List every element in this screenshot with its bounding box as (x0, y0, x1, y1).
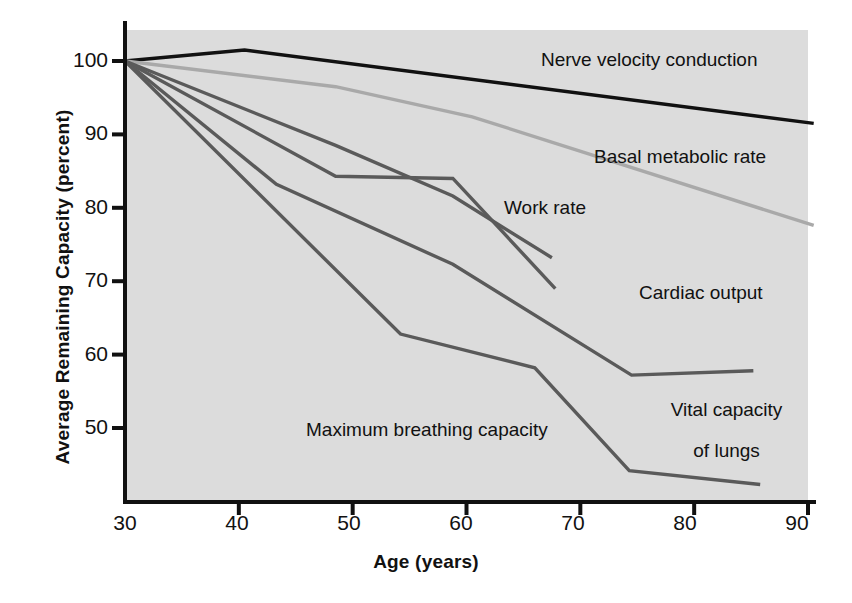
x-tick-label-70: 70 (543, 511, 603, 535)
series-label-vital-capacity-of-lungs: Vital capacity of lungs (636, 379, 796, 482)
vital-capacity-line-2: of lungs (693, 440, 760, 461)
x-tick-label-90: 90 (767, 511, 827, 535)
x-axis-title: Age (years) (0, 551, 852, 573)
series-label-nerve-velocity-conduction: Nerve velocity conduction (541, 50, 758, 71)
y-tick-label-100: 100 (48, 48, 108, 72)
series-label-maximum-breathing-capacity: Maximum breathing capacity (306, 420, 548, 441)
vital-capacity-line-1: Vital capacity (671, 399, 783, 420)
x-tick-label-80: 80 (655, 511, 715, 535)
series-label-work-rate: Work rate (504, 198, 586, 219)
series-label-basal-metabolic-rate: Basal metabolic rate (594, 147, 766, 168)
x-tick-label-30: 30 (95, 511, 155, 535)
chart-container: 100 90 80 70 60 50 30 40 50 60 70 80 90 … (0, 0, 852, 603)
x-tick-label-60: 60 (431, 511, 491, 535)
y-axis-title: Average Remaining Capacity (percent) (52, 72, 74, 502)
x-tick-label-40: 40 (207, 511, 267, 535)
series-label-cardiac-output: Cardiac output (639, 283, 763, 304)
x-tick-label-50: 50 (319, 511, 379, 535)
